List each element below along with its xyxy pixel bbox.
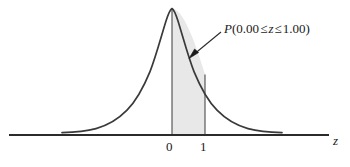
probability-variable: z [268,21,273,36]
probability-close-paren: ) [306,21,310,36]
probability-upper-bound: 1.00 [283,21,306,36]
tick-label-zero: 0 [166,140,173,153]
probability-lower-bound: 0.00 [236,21,259,36]
probability-annotation-label: P(0.00 ≤ z ≤ 1.00) [224,22,310,35]
tick-label-one: 1 [200,140,207,153]
shaded-area-region [172,9,205,136]
probability-function-symbol: P [224,21,232,36]
probability-first-relation: ≤ [260,21,267,36]
probability-second-relation: ≤ [275,21,282,36]
normal-distribution-figure: P(0.00 ≤ z ≤ 1.00) 0 1 z [0,0,350,167]
axis-label-z: z [333,134,338,147]
